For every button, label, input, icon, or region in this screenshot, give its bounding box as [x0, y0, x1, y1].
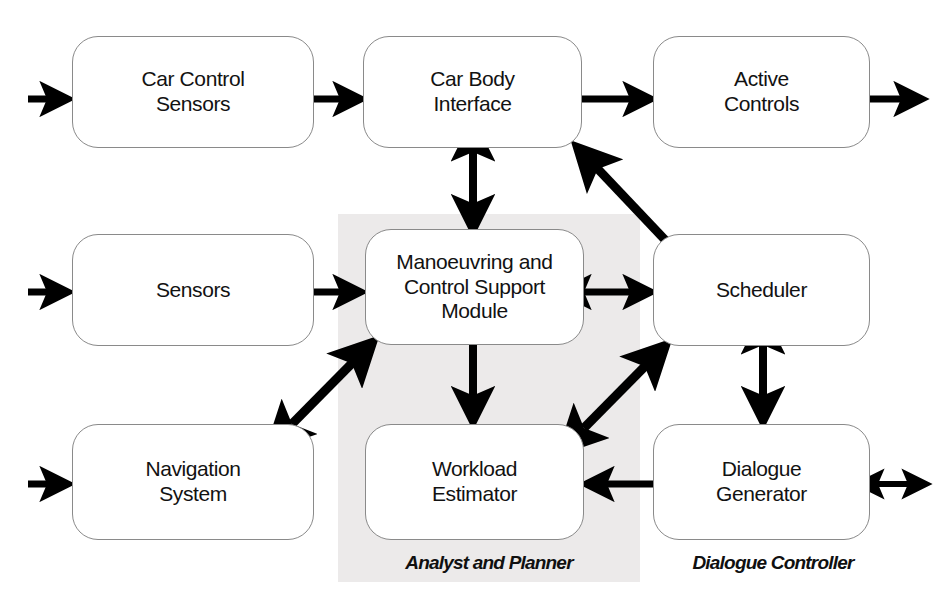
node-label: Active Controls	[718, 67, 805, 116]
node-car-control-sensors[interactable]: Car Control Sensors	[72, 36, 314, 148]
node-active-controls[interactable]: Active Controls	[653, 36, 870, 148]
node-label: Workload Estimator	[426, 457, 523, 506]
node-label: Dialogue Generator	[710, 457, 813, 506]
group-label-dialogue-controller: Dialogue Controller	[653, 552, 893, 574]
node-sensors[interactable]: Sensors	[72, 234, 314, 346]
node-car-body-interface[interactable]: Car Body Interface	[363, 36, 582, 148]
node-navigation-system[interactable]: Navigation System	[72, 424, 314, 540]
node-label: Scheduler	[710, 278, 813, 303]
arrow-workload-estimator-scheduler	[584, 346, 665, 428]
group-label-analyst-and-planner: Analyst and Planner	[338, 552, 640, 574]
arrow-navigation-system-mcsm	[292, 343, 372, 424]
node-label: Car Body Interface	[424, 67, 520, 116]
node-label: Car Control Sensors	[136, 67, 251, 116]
arrow-scheduler-to-car-body-interface	[578, 148, 668, 243]
node-scheduler[interactable]: Scheduler	[653, 234, 870, 346]
node-label: Manoeuvring and Control Support Module	[390, 250, 558, 324]
diagram-canvas: Car Control Sensors Car Body Interface A…	[0, 0, 947, 607]
node-label: Navigation System	[139, 457, 246, 506]
node-dialogue-generator[interactable]: Dialogue Generator	[653, 424, 870, 540]
node-label: Sensors	[150, 278, 236, 303]
node-workload-estimator[interactable]: Workload Estimator	[365, 424, 584, 540]
node-mcsm[interactable]: Manoeuvring and Control Support Module	[365, 229, 584, 345]
